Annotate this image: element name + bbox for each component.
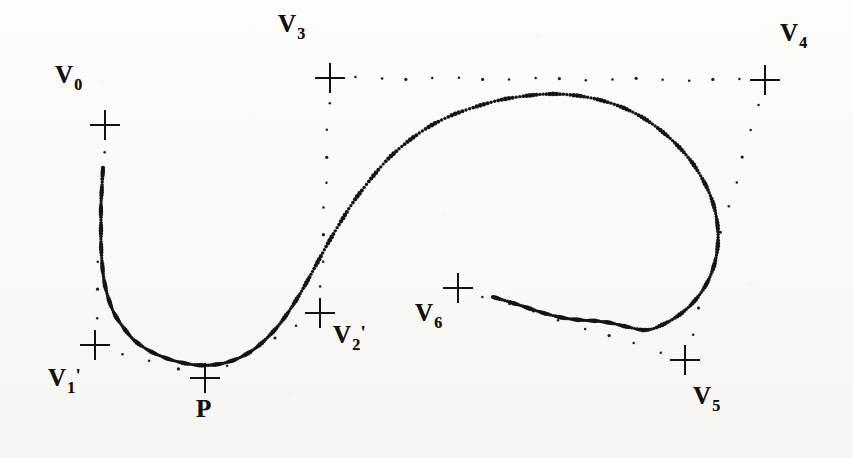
- point-label-v3: V3: [278, 11, 304, 36]
- point-label-v6: V6: [415, 300, 441, 325]
- control-point-marker-v2p: [305, 298, 335, 328]
- point-label-v5: V5: [693, 383, 719, 408]
- control-point-marker-p: [190, 363, 220, 393]
- label-subscript: 6: [434, 314, 442, 331]
- control-point-marker-v0: [90, 110, 120, 140]
- spline-figure-svg: [0, 0, 853, 458]
- curve-spline-curve-upper: [99, 92, 721, 368]
- label-subscript: 0: [74, 76, 82, 93]
- label-base: V: [333, 321, 351, 348]
- polygon-segment-V3-V4: [354, 76, 740, 82]
- polygon-segment-V5-V6: [481, 296, 662, 354]
- label-base: V: [415, 299, 433, 326]
- label-prime: ': [75, 365, 80, 386]
- control-point-marker-v1p: [80, 330, 110, 360]
- label-subscript: 3: [297, 25, 305, 42]
- control-point-markers: [80, 63, 780, 393]
- control-point-marker-v5: [670, 345, 700, 375]
- label-base: P: [196, 395, 211, 422]
- point-label-p: P: [196, 396, 211, 421]
- control-point-marker-v6: [443, 273, 473, 303]
- point-label-v0: V0: [55, 62, 81, 87]
- label-subscript: 5: [712, 397, 720, 414]
- figure-canvas: V0V1'V2'V3V4V5V6P: [0, 0, 853, 458]
- control-point-marker-v3: [315, 63, 345, 93]
- point-label-v4: V4: [780, 20, 806, 45]
- label-base: V: [278, 10, 296, 37]
- label-base: V: [693, 382, 711, 409]
- control-point-marker-v4: [750, 65, 780, 95]
- point-label-v2p: V2': [333, 322, 365, 347]
- polygon-segment-V4-V5: [692, 104, 760, 336]
- point-label-v1p: V1': [48, 365, 80, 390]
- label-base: V: [780, 19, 798, 46]
- spline-curve-layer: [99, 92, 721, 368]
- label-subscript: 4: [799, 34, 807, 51]
- label-prime: ': [360, 322, 365, 343]
- label-base: V: [55, 61, 73, 88]
- label-base: V: [48, 364, 66, 391]
